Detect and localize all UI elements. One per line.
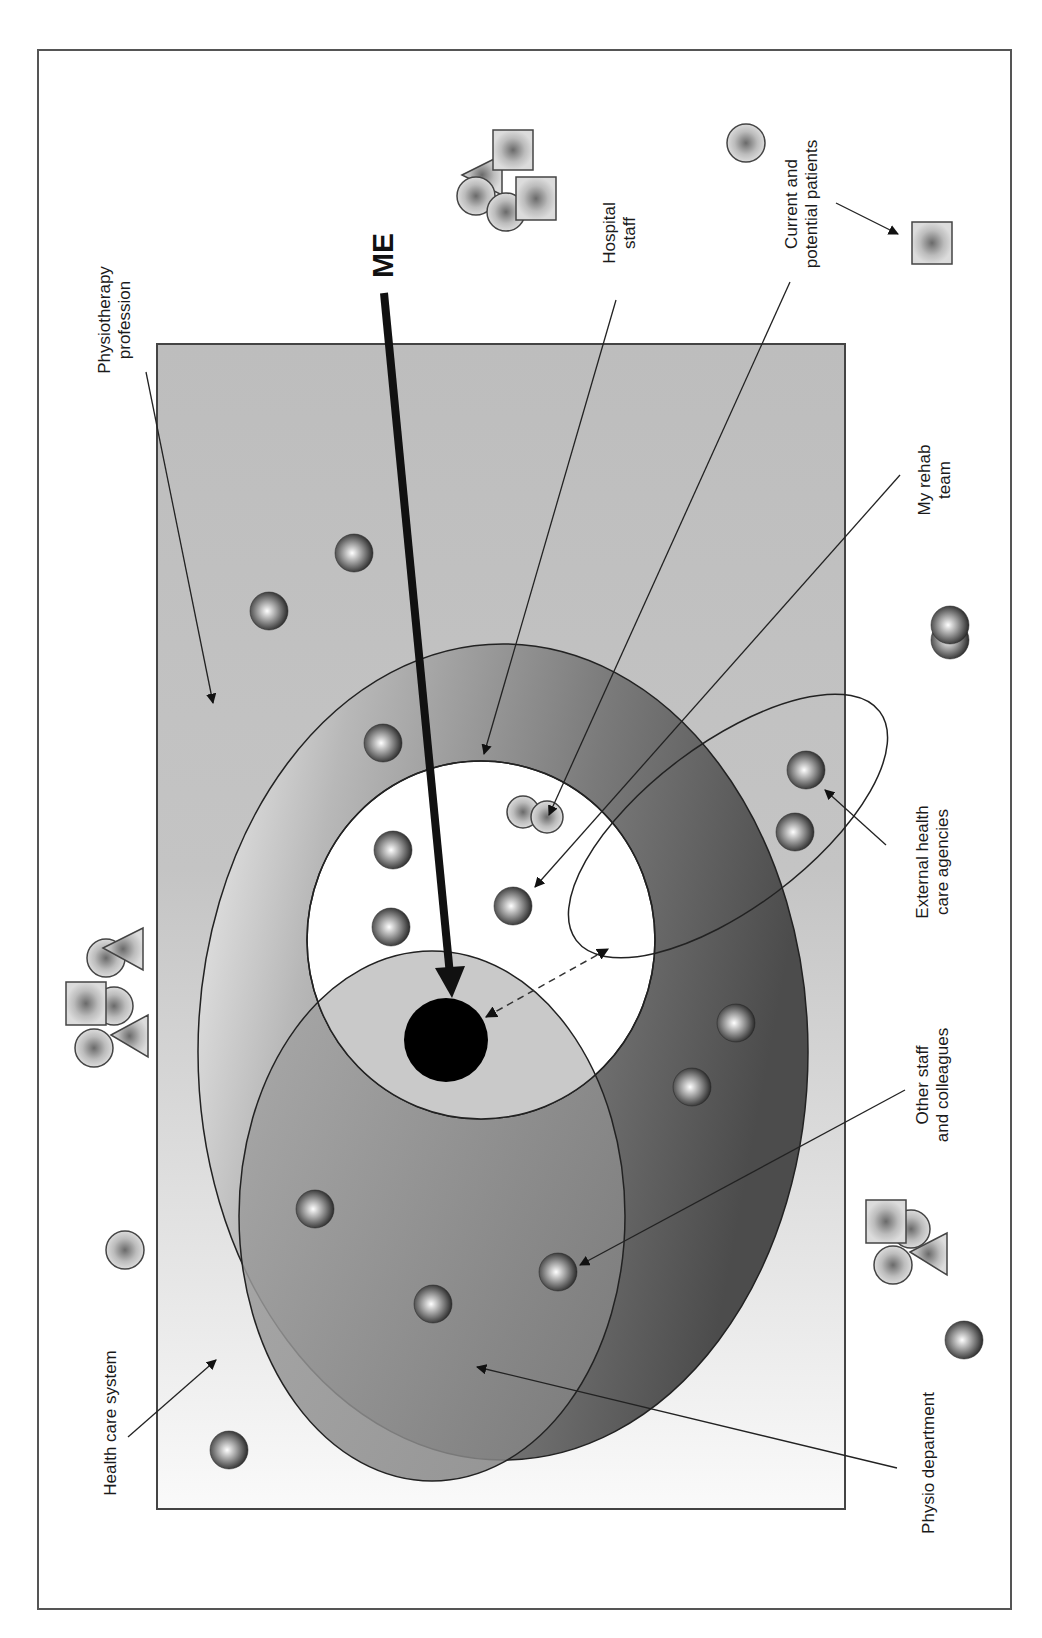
svg-text:Health care system: Health care system bbox=[101, 1350, 120, 1496]
staff-network-diagram: ME Physiotherapy profession Hospital sta… bbox=[0, 0, 1042, 1638]
svg-text:and colleagues: and colleagues bbox=[933, 1028, 952, 1142]
me-label: ME bbox=[366, 233, 399, 278]
svg-text:Current and: Current and bbox=[782, 159, 801, 249]
svg-text:External health: External health bbox=[913, 805, 932, 918]
svg-text:profession: profession bbox=[115, 281, 134, 359]
svg-text:potential patients: potential patients bbox=[802, 140, 821, 269]
svg-text:Hospital: Hospital bbox=[600, 202, 619, 263]
label-physiotherapy-profession: Physiotherapy profession bbox=[95, 266, 134, 374]
svg-text:Other staff: Other staff bbox=[913, 1045, 932, 1124]
svg-text:care agencies: care agencies bbox=[933, 809, 952, 915]
svg-text:team: team bbox=[935, 461, 954, 499]
svg-text:My rehab: My rehab bbox=[915, 445, 934, 516]
svg-text:staff: staff bbox=[620, 217, 639, 249]
label-physio-department: Physio department bbox=[919, 1392, 938, 1534]
svg-text:Physiotherapy: Physiotherapy bbox=[95, 266, 114, 374]
label-external-agencies: External health care agencies bbox=[913, 805, 952, 918]
me-dot bbox=[404, 998, 488, 1082]
label-health-care-system: Health care system bbox=[101, 1350, 120, 1496]
svg-text:Physio department: Physio department bbox=[919, 1392, 938, 1534]
